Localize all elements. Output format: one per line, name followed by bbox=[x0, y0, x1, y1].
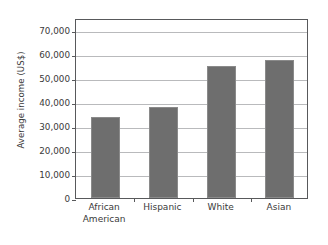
bars-group bbox=[76, 20, 307, 198]
bar-asian bbox=[265, 60, 294, 198]
x-axis-category-label: AfricanAmerican bbox=[75, 202, 133, 225]
x-axis-category-labels: AfricanAmericanHispanicWhiteAsian bbox=[75, 202, 308, 242]
x-axis-category-label-line2: American bbox=[75, 214, 133, 226]
y-axis-tick-label: 20,000 bbox=[39, 146, 70, 156]
x-axis-category-label: Asian bbox=[250, 202, 308, 214]
bar-hispanic bbox=[149, 107, 178, 198]
y-axis-tick-label: 0 bbox=[64, 194, 70, 204]
x-axis-category-label: White bbox=[192, 202, 250, 214]
y-axis-tick-label: 10,000 bbox=[39, 170, 70, 180]
bar-chart-figure: Average income (US$) 010,00020,00030,000… bbox=[0, 0, 328, 245]
plot-area bbox=[75, 19, 308, 199]
y-axis-tick-labels: 010,00020,00030,00040,00050,00060,00070,… bbox=[26, 19, 70, 199]
y-axis-tick-label: 30,000 bbox=[39, 122, 70, 132]
y-axis-tick-label: 40,000 bbox=[39, 98, 70, 108]
bar-white bbox=[207, 66, 236, 198]
y-axis-title-text: Average income (US$) bbox=[16, 51, 26, 148]
bar-african-american bbox=[91, 117, 120, 198]
y-axis-tick-label: 60,000 bbox=[39, 50, 70, 60]
y-axis-tick-label: 50,000 bbox=[39, 74, 70, 84]
y-axis-tickmark bbox=[72, 200, 76, 201]
y-axis-tick-label: 70,000 bbox=[39, 26, 70, 36]
x-axis-category-label: Hispanic bbox=[133, 202, 191, 214]
